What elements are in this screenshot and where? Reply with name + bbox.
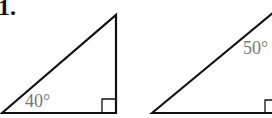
right-angle-marker [102, 99, 116, 113]
triangle-figure: 40° 50° [0, 0, 272, 118]
left-triangle: 40° [2, 15, 116, 113]
right-angle-marker [265, 100, 272, 113]
angle-label-50: 50° [243, 38, 268, 58]
right-triangle: 50° [152, 12, 272, 113]
angle-label-40: 40° [25, 91, 50, 111]
